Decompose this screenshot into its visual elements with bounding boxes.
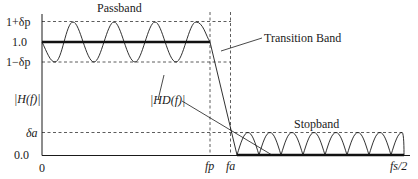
desired-response [42,42,404,155]
y-tick-stopband-ripple: δa [26,126,38,140]
transition-leader [221,38,262,51]
passband-label: Passband [97,1,142,15]
y-tick-upper-ripple: 1+δp [6,15,30,29]
desired-response-label: |HD(f)| [150,93,185,107]
stopband-label: Stopband [294,117,339,131]
transition-band-label: Transition Band [264,31,341,45]
x-tick-zero: 0 [39,161,45,175]
reference-lines [42,12,404,155]
x-tick-half-fs: fs/2 [390,159,407,173]
x-tick-fa: fa [226,159,235,173]
desired-leader-bottom [182,101,272,155]
y-tick-lower-ripple: 1−δp [6,55,30,69]
y-axis-label: |H(f)| [14,92,41,106]
filter-response-diagram: 1+δp 1.0 1−δp |H(f)| δa 0.0 0 fp fa fs/2… [0,0,418,179]
y-tick-one: 1.0 [12,35,27,49]
y-tick-zero: 0.0 [14,148,29,162]
x-tick-fp: fp [205,159,214,173]
